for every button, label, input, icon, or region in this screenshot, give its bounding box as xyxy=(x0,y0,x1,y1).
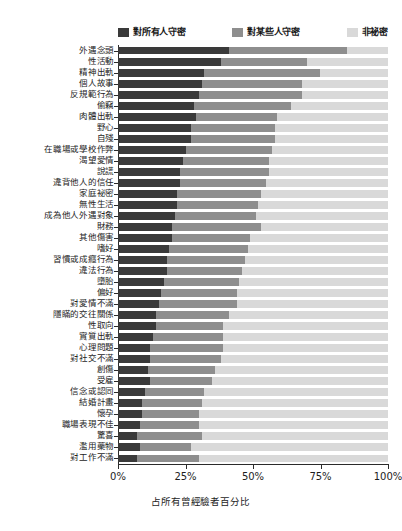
bar-segment-not_secret xyxy=(258,201,388,209)
bar-row xyxy=(118,443,388,451)
bar-row xyxy=(118,47,388,55)
y-axis-label: 偷竊 xyxy=(97,101,114,110)
bar-segment-keep_from_all xyxy=(118,91,199,99)
legend-item-2[interactable]: 非祕密 xyxy=(347,28,388,37)
y-axis-tick xyxy=(114,348,118,349)
bar-segment-keep_from_some xyxy=(150,355,220,363)
y-axis-tick xyxy=(114,194,118,195)
y-axis-tick xyxy=(114,95,118,96)
bar-row xyxy=(118,179,388,187)
chart-legend: 對所有人守密對某些人守密非祕密 xyxy=(118,24,388,40)
y-axis-label: 外遇念頭 xyxy=(79,46,114,55)
bar-segment-keep_from_some xyxy=(140,443,191,451)
x-axis-tick-label: 100% xyxy=(374,471,402,482)
bar-segment-not_secret xyxy=(202,432,388,440)
y-axis-tick xyxy=(114,282,118,283)
bar-row xyxy=(118,300,388,308)
bar-segment-keep_from_all xyxy=(118,146,186,154)
y-axis-tick xyxy=(114,73,118,74)
bar-row xyxy=(118,234,388,242)
y-axis-tick xyxy=(114,106,118,107)
y-axis-tick xyxy=(114,271,118,272)
y-axis-label: 心理問題 xyxy=(79,343,114,352)
bar-segment-keep_from_some xyxy=(180,168,269,176)
y-axis-label: 精神出軌 xyxy=(79,68,114,77)
bar-segment-not_secret xyxy=(237,300,388,308)
bar-segment-keep_from_all xyxy=(118,223,172,231)
x-axis-tick-label: 25% xyxy=(174,471,196,482)
bar-segment-keep_from_all xyxy=(118,69,204,77)
bar-row xyxy=(118,399,388,407)
bar-row xyxy=(118,366,388,374)
bar-segment-not_secret xyxy=(223,322,388,330)
y-axis-tick xyxy=(114,326,118,327)
legend-item-label: 非祕密 xyxy=(362,28,388,37)
bar-segment-keep_from_all xyxy=(118,113,196,121)
y-axis-tick xyxy=(114,458,118,459)
bar-segment-keep_from_some xyxy=(153,333,223,341)
bar-row xyxy=(118,168,388,176)
bar-segment-not_secret xyxy=(221,355,388,363)
bar-row xyxy=(118,135,388,143)
y-axis-tick xyxy=(114,304,118,305)
legend-item-1[interactable]: 對某些人守密 xyxy=(232,28,300,37)
y-axis-label: 違背他人的信任 xyxy=(53,178,114,187)
bar-segment-keep_from_all xyxy=(118,58,221,66)
x-axis-title: 占所有曾經驗者百分比 xyxy=(0,494,401,508)
bar-segment-keep_from_some xyxy=(169,245,247,253)
bar-segment-not_secret xyxy=(199,410,388,418)
y-axis-label: 濫用藥物 xyxy=(79,442,114,451)
bar-segment-not_secret xyxy=(248,245,388,253)
bar-segment-keep_from_all xyxy=(118,421,140,429)
bar-segment-keep_from_some xyxy=(167,267,243,275)
bar-segment-not_secret xyxy=(215,366,388,374)
bar-segment-keep_from_all xyxy=(118,267,167,275)
bar-row xyxy=(118,102,388,110)
bar-segment-keep_from_all xyxy=(118,333,153,341)
bar-segment-keep_from_all xyxy=(118,190,177,198)
bar-segment-keep_from_some xyxy=(150,377,212,385)
bar-segment-keep_from_some xyxy=(142,410,199,418)
y-axis-label: 受雇 xyxy=(97,376,114,385)
bar-segment-not_secret xyxy=(212,377,388,385)
bar-segment-keep_from_all xyxy=(118,179,180,187)
bar-segment-keep_from_all xyxy=(118,212,175,220)
plot-area xyxy=(118,45,388,464)
y-axis-tick xyxy=(114,436,118,437)
bar-row xyxy=(118,69,388,77)
x-axis-tick xyxy=(186,465,187,469)
bar-segment-keep_from_all xyxy=(118,322,156,330)
bar-segment-keep_from_all xyxy=(118,124,191,132)
y-axis-tick xyxy=(114,161,118,162)
legend-item-label: 對所有人守密 xyxy=(133,28,186,37)
bar-segment-not_secret xyxy=(272,146,388,154)
y-axis-label: 成為他人外遇對象 xyxy=(44,211,114,220)
bar-row xyxy=(118,212,388,220)
bar-segment-keep_from_some xyxy=(164,278,240,286)
y-axis-label: 嗜好 xyxy=(97,244,114,253)
y-axis-tick xyxy=(114,447,118,448)
bar-segment-keep_from_some xyxy=(156,311,229,319)
legend-item-0[interactable]: 對所有人守密 xyxy=(118,28,186,37)
bar-segment-not_secret xyxy=(199,421,388,429)
bar-segment-keep_from_some xyxy=(196,113,277,121)
bar-segment-keep_from_some xyxy=(172,234,250,242)
bar-segment-keep_from_some xyxy=(148,366,216,374)
bar-row xyxy=(118,289,388,297)
bar-segment-keep_from_some xyxy=(191,124,275,132)
bar-row xyxy=(118,223,388,231)
y-axis-label: 實質出軌 xyxy=(79,332,114,341)
bar-segment-not_secret xyxy=(239,278,388,286)
bar-segment-not_secret xyxy=(223,333,388,341)
y-axis-tick xyxy=(114,403,118,404)
y-axis-tick xyxy=(114,62,118,63)
y-axis-label: 對工作不滿 xyxy=(70,453,114,462)
bar-segment-keep_from_all xyxy=(118,366,148,374)
y-axis-label: 在職場或學校作弊 xyxy=(44,145,114,154)
bar-segment-keep_from_all xyxy=(118,300,159,308)
bar-segment-keep_from_some xyxy=(229,47,348,55)
bar-row xyxy=(118,146,388,154)
bar-segment-keep_from_all xyxy=(118,377,150,385)
bar-segment-keep_from_all xyxy=(118,157,183,165)
